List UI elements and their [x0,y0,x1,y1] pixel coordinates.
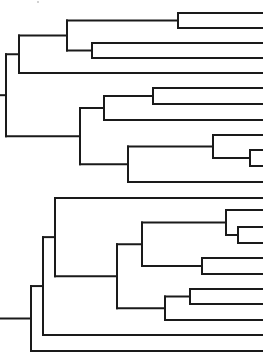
lower-tree [0,198,262,351]
upper-tree [0,13,262,182]
scan-speck [37,1,39,3]
dendrogram-figure [0,0,275,362]
dendrogram-svg [0,0,275,362]
scan-artifacts [37,1,39,3]
